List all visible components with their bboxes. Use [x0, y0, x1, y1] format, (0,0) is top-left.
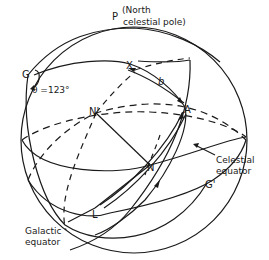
- label-N: N: [147, 162, 154, 173]
- circle-A-down: [70, 60, 190, 250]
- label-celestial-equator-2: equator: [216, 166, 252, 176]
- label-G: G: [22, 69, 30, 80]
- label-L: L: [92, 209, 98, 220]
- label-pole-desc-1: (North: [122, 5, 151, 15]
- line-L-lower: [68, 208, 95, 222]
- label-A: A: [184, 104, 191, 115]
- celestial-sphere-diagram: P (North celestial pole) G θ =123° X b A…: [0, 0, 269, 260]
- arrow-line-L-A-1: [100, 112, 183, 205]
- line-N-L: [95, 165, 150, 208]
- label-pole-desc-2: celestial pole): [123, 17, 186, 27]
- label-b: b: [158, 76, 164, 87]
- label-X: X: [126, 60, 133, 71]
- dashed-X-top: [135, 58, 190, 70]
- diagram-svg: P (North celestial pole) G θ =123° X b A…: [0, 0, 269, 260]
- label-theta: θ =123°: [32, 85, 70, 95]
- label-galactic-equator-1: Galactic: [25, 226, 61, 236]
- label-celestial-equator-1: Celestial: [216, 155, 255, 165]
- dashed-Nprime-up: [96, 72, 135, 113]
- arc-b-outer: [128, 70, 184, 103]
- galactic-equator-front: [28, 140, 246, 216]
- arrowhead-celestial: [193, 143, 199, 148]
- label-galactic-equator-2: equator: [25, 237, 61, 247]
- circle-PA: [138, 60, 190, 62]
- meridian-PG: [28, 28, 220, 75]
- line-Nprime-N: [96, 113, 150, 165]
- label-P: P: [112, 11, 118, 22]
- label-G-prime: G': [205, 179, 216, 190]
- label-N-prime: N': [89, 106, 99, 117]
- sphere-outline: [21, 27, 247, 253]
